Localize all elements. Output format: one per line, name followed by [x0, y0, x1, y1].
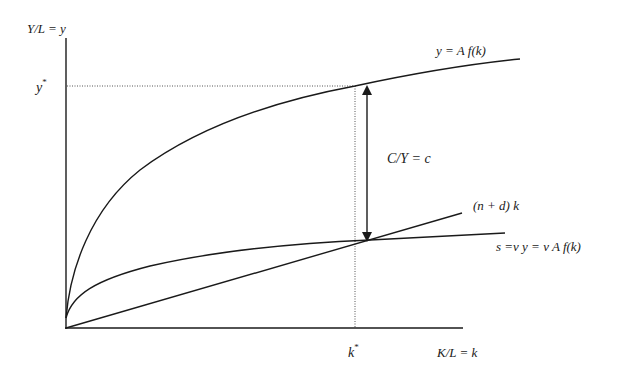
- production-curve-label: y = A f(k): [434, 43, 486, 58]
- k-star-label: k*: [348, 342, 359, 360]
- consumption-gap-label: C/Y = c: [387, 151, 431, 166]
- production-curve: [66, 59, 520, 318]
- y-star-label: y*: [34, 77, 47, 95]
- depreciation-line-label: (n + d) k: [473, 198, 519, 213]
- y-axis-label: Y/L = y: [27, 21, 66, 36]
- solow-diagram: Y/L = y K/L = k y* k* y = A f(k) (n + d)…: [0, 0, 620, 375]
- savings-curve-label: s =v y = v A f(k): [496, 239, 581, 254]
- savings-curve: [66, 233, 505, 318]
- x-axis-label: K/L = k: [436, 345, 478, 360]
- depreciation-line: [66, 213, 462, 328]
